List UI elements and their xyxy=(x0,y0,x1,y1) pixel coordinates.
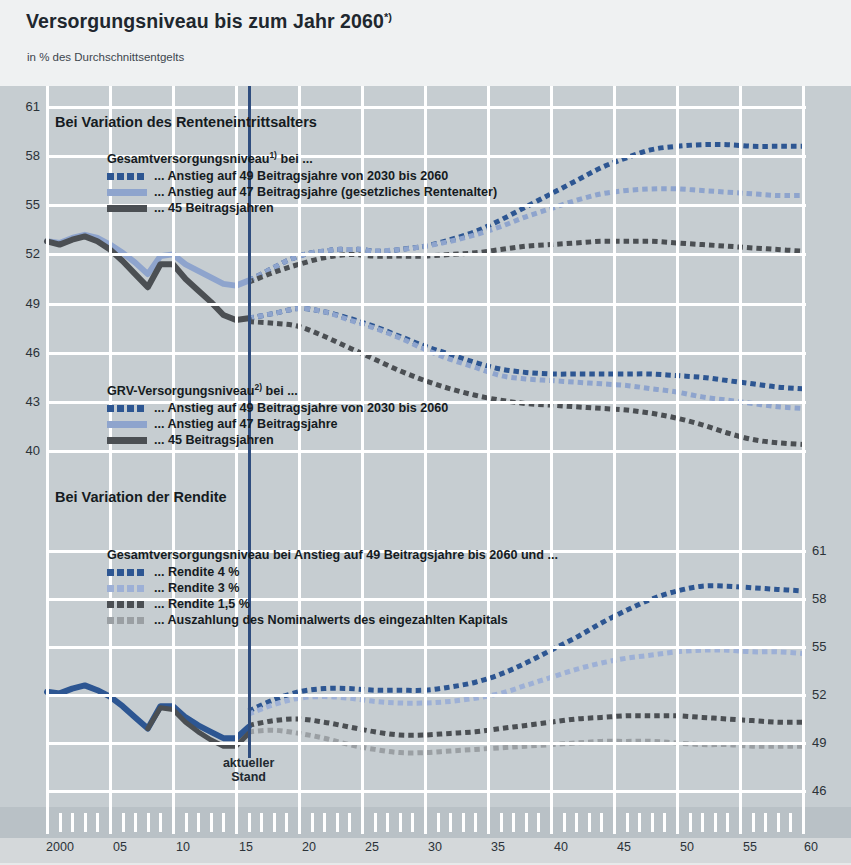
x-axis-tick-minor xyxy=(764,813,767,832)
legend-item[interactable]: ... Anstieg auf 47 Beitragsjahre (gesetz… xyxy=(107,184,497,200)
x-axis-tick-major xyxy=(235,807,238,834)
gridline-vertical xyxy=(676,86,679,807)
legend-item[interactable]: ... 45 Beitragsjahren xyxy=(107,432,448,448)
x-axis-tick-minor xyxy=(575,813,578,832)
chart-header: Versorgungsniveau bis zum Jahr 2060*) in… xyxy=(0,0,851,86)
x-axis-tick-minor xyxy=(71,813,74,832)
legend-item[interactable]: ... Anstieg auf 49 Beitragsjahre von 203… xyxy=(107,400,448,416)
x-axis-tick-label: 30 xyxy=(428,840,442,854)
x-axis-tick-minor xyxy=(500,813,503,832)
x-axis-tick-minor xyxy=(789,813,792,832)
legend-swatch-icon xyxy=(107,569,147,576)
x-axis-tick-minor xyxy=(248,813,251,832)
x-axis-tick-minor xyxy=(222,813,225,832)
y-axis-tick-label: 43 xyxy=(14,394,40,409)
x-axis-tick-minor xyxy=(701,813,704,832)
legend-swatch-icon xyxy=(107,405,147,412)
y-axis-tick xyxy=(47,106,64,109)
y-axis-tick-label: 46 xyxy=(14,345,40,360)
legend-swatch-icon xyxy=(107,189,147,196)
y-axis-tick-label: 52 xyxy=(812,687,838,702)
legend-item-label: ... Anstieg auf 47 Beitragsjahre (gesetz… xyxy=(154,185,497,199)
legend-item[interactable]: ... Rendite 3 % xyxy=(107,580,558,596)
x-axis-tick-minor xyxy=(210,813,213,832)
legend-item-label: ... Rendite 4 % xyxy=(154,565,239,579)
y-axis-tick xyxy=(47,401,64,404)
y-axis-tick-label: 61 xyxy=(812,543,838,558)
x-axis-tick-major xyxy=(109,807,112,834)
x-axis-tick-major xyxy=(739,807,742,834)
x-axis-tick-minor xyxy=(437,813,440,832)
x-axis-tick-minor xyxy=(185,813,188,832)
x-axis-tick-minor xyxy=(96,813,99,832)
legend-gesamtversorgungsniveau: Gesamtversorgungsniveau1) bei ... ... An… xyxy=(107,150,497,216)
legend-item-label: ... 45 Beitragsjahren xyxy=(154,433,274,447)
x-axis-tick-minor xyxy=(525,813,528,832)
x-axis-tick-major xyxy=(424,807,427,834)
x-axis-tick-label: 35 xyxy=(491,840,505,854)
x-axis-tick-minor xyxy=(563,813,566,832)
legend-title: Gesamtversorgungsniveau bei Anstieg auf … xyxy=(107,548,558,562)
y-axis-tick-label: 46 xyxy=(812,783,838,798)
x-axis-tick-major xyxy=(487,807,490,834)
x-axis-tick-minor xyxy=(512,813,515,832)
y-axis-tick-label: 55 xyxy=(812,639,838,654)
legend-item-label: ... Anstieg auf 47 Beitragsjahre xyxy=(154,417,338,431)
legend-rendite: Gesamtversorgungsniveau bei Anstieg auf … xyxy=(107,548,558,628)
x-axis-tick-label: 50 xyxy=(680,840,694,854)
legend-item-label: ... Rendite 3 % xyxy=(154,581,239,595)
legend-item[interactable]: ... Auszahlung des Nominalwerts des eing… xyxy=(107,612,558,628)
legend-swatch-icon xyxy=(107,205,147,212)
x-axis-tick-major xyxy=(550,807,553,834)
legend-swatch-icon xyxy=(107,173,147,180)
x-axis: 2000051015202530354045505560 xyxy=(0,807,851,865)
x-axis-tick-minor xyxy=(600,813,603,832)
x-axis-tick-major xyxy=(172,807,175,834)
legend-item[interactable]: ... 45 Beitragsjahren xyxy=(107,200,497,216)
legend-swatch-icon xyxy=(107,421,147,428)
legend-swatch-icon xyxy=(107,437,147,444)
y-axis-tick-label: 55 xyxy=(14,197,40,212)
legend-title-footnote: 1) xyxy=(269,150,277,160)
x-axis-tick-minor xyxy=(626,813,629,832)
section-heading-retirement-age: Bei Variation des Renteneintrittsalters xyxy=(55,114,317,130)
legend-title-tail: bei ... xyxy=(277,152,313,166)
x-axis-tick-minor xyxy=(134,813,137,832)
legend-item[interactable]: ... Rendite 1,5 % xyxy=(107,596,558,612)
x-axis-tick-minor xyxy=(726,813,729,832)
x-axis-tick-major xyxy=(46,807,49,834)
series-line xyxy=(249,241,803,282)
x-axis-tick-label: 10 xyxy=(176,840,190,854)
x-axis-tick-label: 40 xyxy=(554,840,568,854)
legend-swatch-icon xyxy=(107,585,147,592)
y-axis-tick-label: 49 xyxy=(812,735,838,750)
x-axis-tick-label: 45 xyxy=(617,840,631,854)
y-axis-tick-label: 58 xyxy=(14,148,40,163)
y-axis-tick xyxy=(47,352,64,355)
y-axis-tick-label: 58 xyxy=(812,591,838,606)
y-axis-tick-label: 40 xyxy=(14,443,40,458)
x-axis-tick-minor xyxy=(323,813,326,832)
legend-title-text: Gesamtversorgungsniveau bei Anstieg auf … xyxy=(107,548,558,562)
x-axis-tick-label: 25 xyxy=(365,840,379,854)
legend-item[interactable]: ... Rendite 4 % xyxy=(107,564,558,580)
y-axis-tick xyxy=(47,450,64,453)
x-axis-tick-minor xyxy=(260,813,263,832)
x-axis-tick-minor xyxy=(537,813,540,832)
x-axis-tick-minor xyxy=(84,813,87,832)
legend-title-text: Gesamtversorgungsniveau xyxy=(107,152,269,166)
x-axis-tick-minor xyxy=(285,813,288,832)
x-axis-tick-minor xyxy=(399,813,402,832)
legend-item-label: ... Anstieg auf 49 Beitragsjahre von 203… xyxy=(154,169,448,183)
x-axis-tick-minor xyxy=(411,813,414,832)
x-axis-tick-minor xyxy=(449,813,452,832)
chart-subtitle: in % des Durchschnittsentgelts xyxy=(27,51,184,63)
gridline-vertical xyxy=(550,86,553,807)
legend-item[interactable]: ... Anstieg auf 47 Beitragsjahre xyxy=(107,416,448,432)
x-axis-tick-minor xyxy=(311,813,314,832)
legend-item[interactable]: ... Anstieg auf 49 Beitragsjahre von 203… xyxy=(107,168,497,184)
legend-item-label: ... Auszahlung des Nominalwerts des eing… xyxy=(154,613,508,627)
x-axis-tick-major xyxy=(802,807,805,834)
legend-title-text: GRV-Versorgungsniveau xyxy=(107,384,254,398)
y-axis-tick-label: 61 xyxy=(14,99,40,114)
